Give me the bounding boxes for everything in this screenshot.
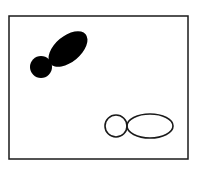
- diagram-canvas: [0, 0, 199, 170]
- outlined-ellipse: [127, 114, 173, 138]
- frame-rectangle: [9, 16, 188, 159]
- outlined-blob-shape: [105, 114, 173, 138]
- filled-blob-shape: [30, 24, 94, 78]
- filled-circle: [30, 56, 52, 78]
- outlined-circle: [105, 115, 127, 137]
